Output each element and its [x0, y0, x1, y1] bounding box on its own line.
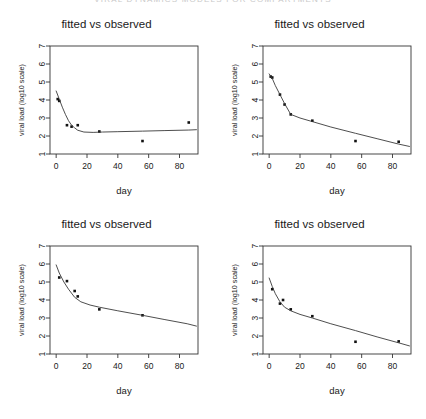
x-axis-label: day — [329, 185, 345, 196]
x-tick-label: 0 — [54, 161, 59, 171]
x-tick-label: 0 — [267, 361, 272, 371]
y-tick-label: 4 — [250, 297, 260, 302]
observed-data-point — [66, 124, 69, 127]
y-tick-label: 6 — [37, 61, 47, 66]
x-tick-label: 20 — [82, 361, 92, 371]
x-tick-label: 40 — [326, 161, 336, 171]
x-tick-label: 60 — [357, 161, 367, 171]
y-tick-label: 7 — [250, 243, 260, 248]
y-axis-label: viral load (log10 scale) — [230, 264, 239, 336]
y-axis-label: viral load (log10 scale) — [17, 264, 26, 336]
scatter-plot-top-right: 1234567020406080dayviral load (log10 sca… — [213, 14, 426, 214]
observed-data-point — [66, 280, 69, 283]
y-tick-label: 1 — [250, 151, 260, 156]
y-tick-label: 1 — [37, 151, 47, 156]
y-tick-label: 4 — [250, 97, 260, 102]
x-tick-label: 40 — [326, 361, 336, 371]
scatter-plot-bottom-left: 1234567020406080dayviral load (log10 sca… — [0, 214, 213, 414]
x-tick-label: 20 — [295, 361, 305, 371]
y-tick-label: 3 — [37, 315, 47, 320]
y-tick-label: 5 — [250, 79, 260, 84]
y-tick-label: 3 — [250, 115, 260, 120]
chart-panel-bottom-right: fitted vs observed 1234567020406080dayvi… — [213, 214, 426, 414]
fitted-curve — [269, 278, 409, 346]
y-tick-label: 6 — [37, 261, 47, 266]
observed-data-point — [76, 295, 79, 298]
observed-data-point — [76, 124, 79, 127]
x-tick-label: 0 — [267, 161, 272, 171]
observed-data-point — [354, 140, 357, 143]
y-tick-label: 1 — [250, 351, 260, 356]
y-tick-label: 7 — [37, 243, 47, 248]
x-tick-label: 0 — [54, 361, 59, 371]
observed-data-point — [187, 121, 190, 124]
y-tick-label: 5 — [37, 79, 47, 84]
y-axis-label: viral load (log10 scale) — [230, 64, 239, 136]
observed-data-point — [354, 340, 357, 343]
x-tick-label: 60 — [144, 161, 154, 171]
observed-data-point — [397, 140, 400, 143]
y-tick-label: 5 — [250, 279, 260, 284]
y-tick-label: 2 — [37, 133, 47, 138]
y-axis-label: viral load (log10 scale) — [17, 64, 26, 136]
chart-panel-bottom-left: fitted vs observed 1234567020406080dayvi… — [0, 214, 213, 414]
observed-data-point — [141, 140, 144, 143]
x-tick-label: 20 — [82, 161, 92, 171]
y-tick-label: 7 — [37, 43, 47, 48]
y-tick-label: 4 — [37, 297, 47, 302]
x-axis-label: day — [329, 385, 345, 396]
y-tick-label: 7 — [250, 43, 260, 48]
page-running-header: VIRAL DYNAMICS MODELS FOR COMPARTMENTS — [0, 0, 426, 3]
x-tick-label: 60 — [357, 361, 367, 371]
figure-panel-grid: fitted vs observed 1234567020406080dayvi… — [0, 14, 426, 419]
y-tick-label: 2 — [250, 133, 260, 138]
x-tick-label: 40 — [113, 161, 123, 171]
observed-data-point — [58, 276, 61, 279]
x-tick-label: 80 — [175, 161, 185, 171]
y-tick-label: 1 — [37, 351, 47, 356]
chart-panel-top-right: fitted vs observed 1234567020406080dayvi… — [213, 14, 426, 214]
y-tick-label: 6 — [250, 261, 260, 266]
y-tick-label: 2 — [250, 333, 260, 338]
x-tick-label: 40 — [113, 361, 123, 371]
chart-panel-top-left: fitted vs observed 1234567020406080dayvi… — [0, 14, 213, 214]
x-tick-label: 80 — [388, 361, 398, 371]
scatter-plot-bottom-right: 1234567020406080dayviral load (log10 sca… — [213, 214, 426, 414]
x-axis-label: day — [116, 385, 132, 396]
fitted-curve — [269, 74, 409, 147]
x-axis-label: day — [116, 185, 132, 196]
x-tick-label: 20 — [295, 161, 305, 171]
y-tick-label: 5 — [37, 279, 47, 284]
scatter-plot-top-left: 1234567020406080dayviral load (log10 sca… — [0, 14, 213, 214]
observed-data-point — [311, 315, 314, 318]
observed-data-point — [73, 290, 76, 293]
y-tick-label: 6 — [250, 61, 260, 66]
x-tick-label: 60 — [144, 361, 154, 371]
observed-data-point — [282, 299, 285, 302]
y-tick-label: 3 — [250, 315, 260, 320]
observed-data-point — [98, 308, 101, 311]
x-tick-label: 80 — [388, 161, 398, 171]
y-tick-label: 3 — [37, 115, 47, 120]
y-tick-label: 2 — [37, 333, 47, 338]
x-tick-label: 80 — [175, 361, 185, 371]
y-tick-label: 4 — [37, 97, 47, 102]
